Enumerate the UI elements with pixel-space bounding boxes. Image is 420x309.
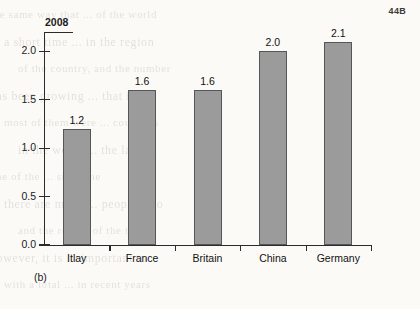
y-tick-label: 2.0 xyxy=(6,44,36,56)
y-tick xyxy=(39,196,50,197)
bar xyxy=(128,90,156,245)
category-label: Germany xyxy=(298,252,378,264)
bar xyxy=(324,42,352,245)
y-tick xyxy=(39,244,50,245)
bar xyxy=(63,129,91,245)
x-tick xyxy=(109,245,110,251)
figure-caption: (b) xyxy=(34,271,47,283)
x-tick xyxy=(240,245,241,251)
y-tick-label-wrap: 0.0 xyxy=(0,238,36,250)
y-axis xyxy=(44,32,45,246)
y-tick xyxy=(39,148,50,149)
x-tick xyxy=(306,245,307,251)
y-tick-label-wrap: 0.5 xyxy=(0,190,36,202)
bar-value-label: 1.2 xyxy=(52,114,102,126)
y-tick-label-wrap: 1.0 xyxy=(0,141,36,153)
x-tick xyxy=(371,245,372,251)
bar xyxy=(194,90,222,245)
y-tick-label: 0.5 xyxy=(6,190,36,202)
y-tick xyxy=(39,99,50,100)
x-axis xyxy=(44,245,371,246)
chart-title: 2008 xyxy=(45,16,68,28)
x-tick xyxy=(175,245,176,251)
y-tick-label: 1.0 xyxy=(6,141,36,153)
y-tick-label: 1.5 xyxy=(6,93,36,105)
y-axis-cap xyxy=(44,32,73,33)
bar xyxy=(259,51,287,245)
bar-value-label: 2.0 xyxy=(248,36,298,48)
y-tick-label-wrap: 1.5 xyxy=(0,93,36,105)
bar-value-label: 1.6 xyxy=(183,75,233,87)
bar-value-label: 2.1 xyxy=(313,27,363,39)
bar-chart: 2008 0.00.51.01.52.0 1.2Itlay1.6France1.… xyxy=(0,0,420,309)
bar-value-label: 1.6 xyxy=(117,75,167,87)
y-tick xyxy=(39,51,50,52)
y-tick-label-wrap: 2.0 xyxy=(0,44,36,56)
y-tick-label: 0.0 xyxy=(6,238,36,250)
